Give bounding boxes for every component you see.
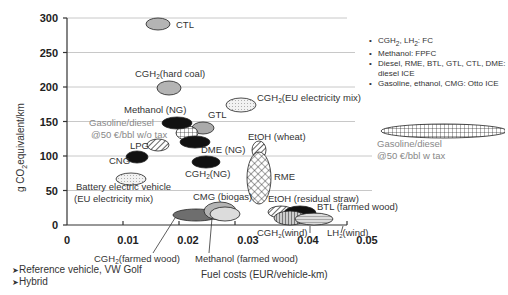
svg-text:50: 50 bbox=[46, 185, 58, 197]
svg-text:CNG: CNG bbox=[109, 155, 130, 166]
svg-text:BTL (farmed wood): BTL (farmed wood) bbox=[317, 201, 398, 212]
ellipse-methanol-wood bbox=[210, 207, 240, 221]
footer-hybrid: Hybrid bbox=[12, 276, 142, 288]
y-tick-labels: 300 250 200 150 100 50 0 bbox=[40, 12, 58, 231]
svg-text:CGH2(hard coal): CGH2(hard coal) bbox=[135, 68, 205, 80]
ellipse-gasdiesel-wtax bbox=[381, 124, 505, 138]
ellipse-cgh2-ng bbox=[192, 156, 220, 168]
svg-text:CMG (biogas): CMG (biogas) bbox=[193, 191, 252, 202]
svg-text:GTL: GTL bbox=[208, 109, 226, 120]
svg-text:DME (NG): DME (NG) bbox=[201, 144, 245, 155]
svg-text:LH2(wind): LH2(wind) bbox=[327, 227, 368, 239]
svg-text:CGH2(EU electricity mix): CGH2(EU electricity mix) bbox=[257, 92, 361, 104]
ellipse-cgh2-hardcoal bbox=[157, 81, 181, 95]
svg-text:0.02: 0.02 bbox=[177, 234, 198, 246]
svg-text:Methanol (farmed wood): Methanol (farmed wood) bbox=[195, 253, 298, 264]
svg-text:EtOH (wheat): EtOH (wheat) bbox=[248, 131, 306, 142]
ellipse-ctl bbox=[146, 18, 170, 30]
ellipse-cgh2-eu bbox=[226, 98, 256, 112]
svg-text:100: 100 bbox=[40, 150, 58, 162]
footer-notes: Reference vehicle, VW Golf Hybrid bbox=[12, 264, 142, 288]
x-axis-title: Fuel costs (EUR/vehicle-km) bbox=[201, 269, 328, 280]
ellipse-lh2-wind bbox=[295, 213, 333, 225]
footer-reference-vehicle: Reference vehicle, VW Golf bbox=[12, 264, 142, 276]
note-fpfc: Methanol: FPFC bbox=[378, 49, 508, 59]
svg-text:@50 €/bbl w tax: @50 €/bbl w tax bbox=[377, 150, 446, 161]
svg-text:RME: RME bbox=[274, 171, 295, 182]
svg-text:Methanol (NG): Methanol (NG) bbox=[124, 104, 186, 115]
note-otto: Gasoline, ethanol, CMG: Otto ICE bbox=[378, 79, 508, 89]
ellipse-lpg bbox=[147, 139, 169, 151]
svg-text:0: 0 bbox=[52, 219, 58, 231]
svg-text:Gasoline/diesel: Gasoline/diesel bbox=[89, 117, 154, 128]
ellipse-methanol-ng bbox=[162, 117, 192, 129]
svg-text:0.03: 0.03 bbox=[237, 234, 258, 246]
svg-text:CGH2(wind): CGH2(wind) bbox=[257, 227, 307, 239]
y-axis-title: g CO2equivalent/km bbox=[15, 103, 28, 192]
legend-notes: CGH2, LH2: FC Methanol: FPFC Diesel, RME… bbox=[368, 36, 508, 89]
svg-text:300: 300 bbox=[40, 12, 58, 24]
svg-text:150: 150 bbox=[40, 116, 58, 128]
svg-text:CGH2(NG): CGH2(NG) bbox=[185, 168, 230, 180]
note-diesel: Diesel, RME, BTL, GTL, CTL, DME: diesel … bbox=[378, 59, 508, 79]
svg-text:200: 200 bbox=[40, 81, 58, 93]
svg-text:0.01: 0.01 bbox=[117, 234, 138, 246]
note-fc: CGH2, LH2: FC bbox=[378, 36, 508, 49]
svg-text:LPG: LPG bbox=[130, 140, 149, 151]
svg-text:Gasoline/diesel: Gasoline/diesel bbox=[377, 138, 442, 149]
svg-text:(EU electricity mix): (EU electricity mix) bbox=[74, 193, 153, 204]
svg-text:250: 250 bbox=[40, 47, 58, 59]
svg-text:0: 0 bbox=[64, 234, 70, 246]
svg-text:@50 €/bbl w/o tax: @50 €/bbl w/o tax bbox=[91, 129, 167, 140]
svg-text:CTL: CTL bbox=[176, 19, 194, 30]
svg-text:Battery electric vehicle: Battery electric vehicle bbox=[76, 181, 171, 192]
